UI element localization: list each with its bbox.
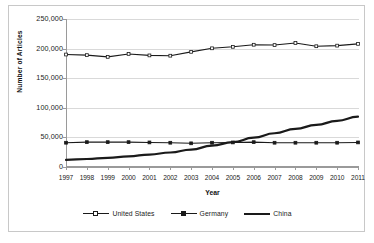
legend-label: United States	[112, 210, 154, 217]
data-point-marker	[148, 54, 151, 57]
data-point-marker	[315, 141, 318, 144]
data-point-marker	[65, 53, 68, 56]
x-tick-mark	[87, 167, 88, 170]
data-point-marker	[357, 141, 360, 144]
series-plot	[66, 19, 359, 167]
chart-legend: United StatesGermanyChina	[9, 209, 366, 218]
y-axis-tick-labels: 250,000200,000150,000100,00050,0000	[13, 19, 63, 167]
legend-swatch-icon	[83, 209, 109, 218]
x-tick-mark	[212, 167, 213, 170]
x-tick-mark	[149, 167, 150, 170]
x-axis-tick-labels: 1997199819992000200120022003200420052006…	[66, 167, 359, 189]
x-tick-mark	[316, 167, 317, 170]
x-tick-mark	[191, 167, 192, 170]
x-tick-mark	[358, 167, 359, 170]
x-tick-mark	[66, 167, 67, 170]
legend-label: China	[273, 210, 291, 217]
data-point-marker	[190, 50, 193, 53]
legend-swatch-icon	[244, 209, 270, 218]
legend-item[interactable]: China	[244, 209, 291, 218]
data-point-marker	[85, 141, 88, 144]
data-point-marker	[190, 142, 193, 145]
x-tick-mark	[129, 167, 130, 170]
x-tick-label: 2011	[345, 174, 371, 181]
y-tick-label: 50,000	[19, 133, 63, 141]
series-line	[66, 117, 358, 160]
data-point-marker	[211, 141, 214, 144]
plot-area	[66, 19, 359, 167]
data-point-marker	[294, 42, 297, 45]
data-point-marker	[273, 44, 276, 47]
data-point-marker	[336, 141, 339, 144]
x-tick-mark	[295, 167, 296, 170]
data-point-marker	[106, 55, 109, 58]
legend-label: Germany	[200, 210, 229, 217]
data-point-marker	[252, 141, 255, 144]
legend-item[interactable]: United States	[83, 209, 154, 218]
x-tick-mark	[337, 167, 338, 170]
data-point-marker	[336, 44, 339, 47]
data-point-marker	[85, 54, 88, 57]
data-point-marker	[357, 42, 360, 45]
legend-swatch-icon	[171, 209, 197, 218]
chart-frame: Number of Articles 250,000200,000150,000…	[8, 5, 365, 232]
y-tick-label: 200,000	[19, 45, 63, 53]
data-point-marker	[127, 141, 130, 144]
data-point-marker	[65, 141, 68, 144]
y-tick-label: 100,000	[19, 104, 63, 112]
legend-item[interactable]: Germany	[171, 209, 229, 218]
data-point-marker	[169, 141, 172, 144]
y-tick-label: 0	[19, 163, 63, 171]
y-tick-label: 150,000	[19, 74, 63, 82]
x-tick-mark	[254, 167, 255, 170]
x-tick-mark	[108, 167, 109, 170]
x-tick-mark	[275, 167, 276, 170]
y-tick-label: 250,000	[19, 15, 63, 23]
data-point-marker	[148, 141, 151, 144]
data-point-marker	[252, 43, 255, 46]
data-point-marker	[169, 54, 172, 57]
data-point-marker	[127, 53, 130, 56]
x-axis-title: Year	[66, 189, 359, 196]
data-point-marker	[231, 45, 234, 48]
data-point-marker	[106, 141, 109, 144]
data-point-marker	[273, 141, 276, 144]
data-point-marker	[294, 141, 297, 144]
x-tick-mark	[170, 167, 171, 170]
x-tick-mark	[233, 167, 234, 170]
data-point-marker	[315, 45, 318, 48]
data-point-marker	[211, 47, 214, 50]
